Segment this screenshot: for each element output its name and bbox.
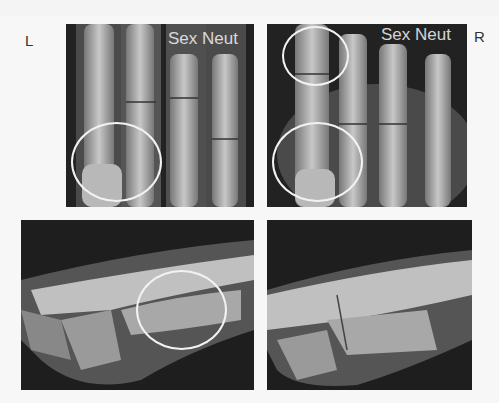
xray-image bbox=[267, 220, 472, 390]
overlay-text-top-right: Sex Neut bbox=[381, 26, 451, 43]
annotation-circle bbox=[282, 26, 349, 86]
annotation-circle bbox=[71, 122, 162, 202]
right-side-label: R bbox=[474, 29, 485, 44]
annotation-circle bbox=[272, 122, 363, 202]
overlay-text-top-left: Sex Neut bbox=[168, 30, 238, 47]
xray-bottom-right-lateral bbox=[267, 220, 472, 390]
annotation-circle bbox=[136, 270, 227, 350]
left-side-label: L bbox=[25, 33, 33, 48]
